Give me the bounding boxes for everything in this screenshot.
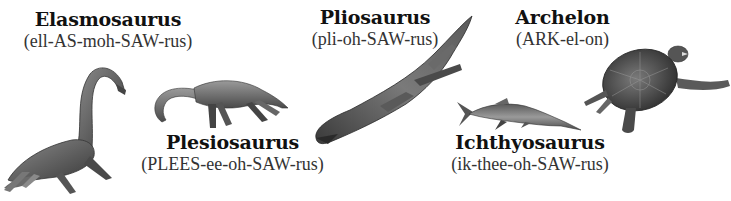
label-elasmosaurus: Elasmosaurus (ell-AS-moh-SAW-rus) [0,8,228,52]
long-neck-plesiosaur-illustration [0,60,130,200]
ichthyosaurus-icon [455,98,585,134]
pliosaur-illustration [310,14,475,150]
archelon-icon [582,44,731,136]
species-name: Elasmosaurus [0,8,228,30]
plesiosaurus-icon [150,72,290,132]
sea-turtle-illustration [582,44,731,136]
ichthyosaur-illustration [455,98,585,134]
plesiosaur-illustration [150,72,290,132]
pliosaurus-icon [310,14,475,150]
elasmosaurus-icon [0,60,130,200]
species-name: Archelon [505,6,620,28]
species-pronunciation: (ik-thee-oh-SAW-rus) [425,153,635,175]
species-pronunciation: (ell-AS-moh-SAW-rus) [0,30,228,52]
species-pronunciation: (PLEES-ee-oh-SAW-rus) [120,153,345,175]
